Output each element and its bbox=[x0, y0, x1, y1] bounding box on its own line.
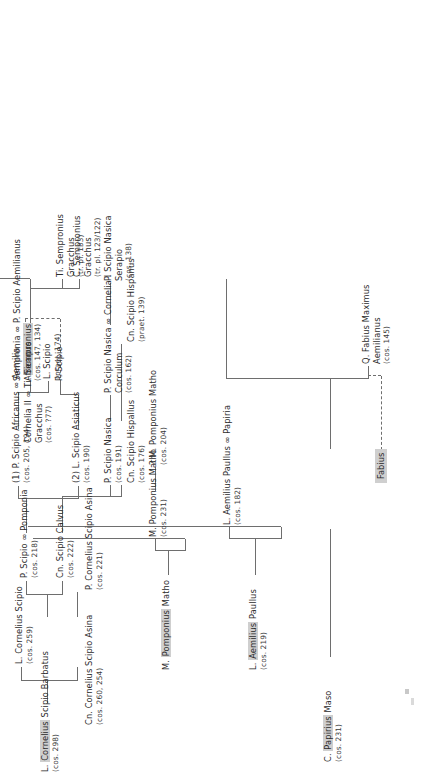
node-fabius-maximus-name2: Aemilianus bbox=[372, 284, 383, 364]
node-paullus-182-name: L. Aemilius Paullus ∞ Papiria bbox=[222, 405, 233, 525]
node-c-gracchus-name: C. Sempronius bbox=[72, 215, 83, 277]
node-l-cornelius-scipio: L. Cornelius Scipio (cos. 259) bbox=[14, 586, 35, 664]
node-p-scipio-asina: P. Cornelius Scipio Asina (cos. 221) bbox=[84, 487, 105, 590]
node-paullus-182: L. Aemilius Paullus ∞ Papiria (cos. 182) bbox=[222, 405, 243, 525]
connector-to-nasica-191 bbox=[110, 485, 111, 497]
node-matho-204-year: (cos. 204) bbox=[159, 370, 170, 465]
connector-to-p-scipio-dashed bbox=[60, 383, 61, 395]
connector-papirius-stem bbox=[330, 529, 331, 657]
node-scipio-aemilianus: Sempronia ∞ P. Scipio Aemilianus African… bbox=[12, 239, 44, 381]
node-papirius-maso: C. Papirius Maso (cos. 231) bbox=[323, 690, 344, 762]
connector-to-fabius-maximus bbox=[368, 366, 369, 379]
node-hispallus: Cn. Scipio Hispallus (cos. 176) bbox=[126, 400, 147, 483]
node-m-pomponius-matho-top: M. Pomponius Matho bbox=[161, 580, 172, 670]
connector-to-c-gracchus bbox=[79, 279, 80, 289]
node-cn-scipio-asina-name: Cn. Cornelius Scipio Asina bbox=[84, 615, 95, 725]
node-p-scipio-pomponia-year: (cos. 218) bbox=[30, 489, 41, 578]
connector-to-matho-231 bbox=[155, 539, 156, 551]
fabius-adoption-dashed bbox=[381, 376, 382, 450]
node-barbatus-name: L. Cornelius Scipio Barbatus bbox=[40, 651, 51, 772]
node-cn-scipio-calvus: Cn. Scipio Calvus (cos. 222) bbox=[55, 505, 76, 578]
node-scipio-aemilianus-year: (cos. 147, 134) bbox=[33, 239, 44, 381]
node-serapio-year: (cos. 138) bbox=[124, 215, 135, 281]
node-serapio-name: P. Scipio Nasica bbox=[103, 215, 114, 281]
node-paullus-182-year: (cos. 182) bbox=[233, 405, 244, 525]
scan-artifact-b bbox=[411, 698, 414, 705]
node-scipio-aemilianus-name: Sempronia ∞ P. Scipio Aemilianus bbox=[12, 239, 23, 381]
node-p-scipio-asina-year: (cos. 221) bbox=[95, 487, 106, 590]
fabius-label: Fabius bbox=[375, 449, 387, 483]
node-hispanus-year: (praet. 139) bbox=[137, 258, 148, 342]
node-nasica-191-year: (cos. 191) bbox=[114, 417, 125, 483]
connector-aemilius-split bbox=[229, 538, 281, 539]
node-nasica-191-name: P. Scipio Nasica bbox=[103, 417, 114, 483]
node-barbatus-year: (cos. 298) bbox=[51, 651, 62, 772]
connector-pomponius-split bbox=[155, 550, 185, 551]
connector-to-cn-scipio-asina bbox=[77, 667, 78, 681]
connector-paullus182-to-aemilianus bbox=[226, 378, 330, 379]
node-l-cornelius-scipio-year: (cos. 259) bbox=[25, 586, 36, 664]
node-papirius-maso-year: (cos. 231) bbox=[334, 690, 345, 762]
node-barbatus: L. Cornelius Scipio Barbatus (cos. 298) bbox=[40, 651, 61, 772]
node-scipio-aemilianus-name2: Africanus bbox=[23, 239, 34, 381]
node-l-scipio-asiaticus-year: (cos. 190) bbox=[82, 392, 93, 483]
connector-l-cornelius-stem bbox=[47, 595, 48, 617]
node-hispallus-name: Cn. Scipio Hispallus bbox=[126, 400, 137, 483]
connector-aemilianus-adoption-join bbox=[226, 279, 227, 379]
node-cn-scipio-calvus-name: Cn. Scipio Calvus bbox=[55, 505, 66, 578]
connector-to-l-cornelius-scipio bbox=[21, 667, 22, 681]
connector-to-asiaticus bbox=[78, 486, 79, 499]
fabius-adoption-dashed-v bbox=[368, 375, 381, 376]
node-cn-scipio-asina: Cn. Cornelius Scipio Asina (cos. 260, 25… bbox=[84, 615, 105, 725]
node-l-scipio-asiaticus-name: (2) L. Scipio Asiaticus bbox=[71, 392, 82, 483]
node-p-scipio-asina-name: P. Cornelius Scipio Asina bbox=[84, 487, 95, 590]
node-c-gracchus: C. Sempronius Gracchus (tr. pl. 123/122) bbox=[72, 215, 104, 277]
node-aemilius-paullus-219: L. Aemilius Paullus (cos. 219) bbox=[248, 589, 269, 670]
node-ti-gracchus-133-name: Ti. Sempronius bbox=[55, 214, 66, 277]
node-c-gracchus-name2: Gracchus bbox=[83, 215, 94, 277]
connector-to-ti-gracchus-133 bbox=[62, 279, 63, 289]
connector-paullus182-split bbox=[330, 378, 368, 379]
node-cn-scipio-calvus-year: (cos. 222) bbox=[66, 505, 77, 578]
connector-to-aemilia bbox=[281, 527, 282, 539]
node-cn-scipio-asina-year: (cos. 260, 254) bbox=[95, 615, 106, 725]
node-aemilius-paullus-219-year: (cos. 219) bbox=[259, 589, 270, 670]
node-matho-204-name: ? M. Pomponius Matho bbox=[148, 370, 159, 465]
node-p-scipio-pomponia-name: P. Scipio ∞ Pomponia bbox=[19, 489, 30, 578]
node-l-cornelius-scipio-name: L. Cornelius Scipio bbox=[14, 586, 25, 664]
connector-to-paullus-182 bbox=[229, 527, 230, 539]
scan-artifact-a bbox=[405, 689, 409, 694]
connector-asina-to-asina bbox=[77, 592, 78, 617]
stemma-canvas: L. Cornelius Scipio Barbatus (cos. 298) … bbox=[0, 0, 424, 780]
connector-to-pomponia bbox=[185, 539, 186, 551]
node-p-scipio-pomponia: P. Scipio ∞ Pomponia (cos. 218) bbox=[19, 489, 40, 578]
connector-aemilius-stem bbox=[255, 539, 256, 575]
node-corculum-name: P. Scipio Nasica ∞ Cornelia I bbox=[103, 275, 114, 393]
node-serapio: P. Scipio Nasica Serapio (cos. 138) bbox=[103, 215, 135, 281]
node-fabius-maximus-year: (cos. 145) bbox=[382, 284, 393, 364]
node-fabius-maximus-name: Q. Fabius Maximus bbox=[361, 284, 372, 364]
node-corculum-name2: Corculum bbox=[114, 275, 125, 393]
node-aemilius-paullus-219-name: L. Aemilius Paullus bbox=[248, 589, 259, 670]
node-l-scipio-asiaticus: (2) L. Scipio Asiaticus (cos. 190) bbox=[71, 392, 92, 483]
connector-paullus182-stem bbox=[330, 379, 331, 449]
node-papirius-maso-name: C. Papirius Maso bbox=[323, 690, 334, 762]
node-serapio-name2: Serapio bbox=[114, 215, 125, 281]
node-cornelia-ii-gracchus-year: (cos. ?77) bbox=[44, 323, 55, 443]
connector-to-hispallus bbox=[121, 485, 122, 497]
node-m-pomponius-matho-top-name: M. Pomponius Matho bbox=[161, 580, 172, 670]
node-matho-204: ? M. Pomponius Matho (cos. 204) bbox=[148, 370, 169, 465]
node-fabius-maximus: Q. Fabius Maximus Aemilianus (cos. 145) bbox=[361, 284, 393, 364]
node-hispallus-year: (cos. 176) bbox=[137, 400, 148, 483]
connector-to-cn-calvus bbox=[62, 581, 63, 595]
node-nasica-191: P. Scipio Nasica (cos. 191) bbox=[103, 417, 124, 483]
connector-pomponius-stem bbox=[168, 551, 169, 575]
